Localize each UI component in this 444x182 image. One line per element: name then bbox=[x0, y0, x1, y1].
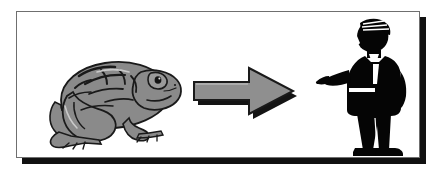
figure-group bbox=[316, 19, 406, 156]
frog-body-group bbox=[50, 62, 181, 149]
right-arrow-icon bbox=[185, 60, 297, 122]
screenshot-root bbox=[0, 0, 444, 182]
frog-illustration bbox=[45, 40, 185, 152]
illustration-frame-bottom-shadow bbox=[22, 158, 426, 164]
illustration-canvas bbox=[17, 12, 419, 157]
illustration-frame-right-shadow bbox=[420, 17, 426, 164]
illustration-frame bbox=[16, 11, 420, 158]
formal-man-silhouette bbox=[315, 14, 419, 157]
